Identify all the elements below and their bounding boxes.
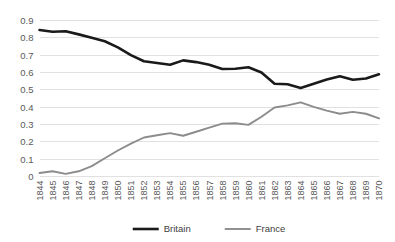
series-line-france <box>40 102 380 174</box>
x-tick-label: 1852 <box>139 181 149 201</box>
x-tick-label: 1847 <box>74 181 84 201</box>
y-tick-label: 0.1 <box>20 154 33 165</box>
x-tick-label: 1860 <box>244 181 254 201</box>
x-tick-label: 1868 <box>348 181 358 201</box>
chart-legend: BritainFrance <box>133 223 286 234</box>
data-series <box>40 30 380 174</box>
x-tick-label: 1851 <box>126 181 136 201</box>
series-line-britain <box>40 30 380 88</box>
chart-plot-area: 0.90.80.70.60.50.40.30.20.10 18441845184… <box>0 0 395 242</box>
legend-item-britain[interactable]: Britain <box>133 223 191 234</box>
y-tick-label: 0.8 <box>20 32 33 43</box>
y-tick-label: 0.5 <box>20 84 33 95</box>
x-tick-label: 1857 <box>205 181 215 201</box>
x-tick-label: 1850 <box>113 181 123 201</box>
gridlines <box>40 21 380 177</box>
x-tick-label: 1863 <box>283 181 293 201</box>
x-tick-label: 1862 <box>270 181 280 201</box>
x-tick-label: 1870 <box>374 181 384 201</box>
x-tick-label: 1864 <box>296 181 306 201</box>
legend-label: Britain <box>164 223 191 234</box>
x-tick-label: 1854 <box>165 181 175 201</box>
x-tick-label: 1859 <box>231 181 241 201</box>
x-tick-label: 1848 <box>87 181 97 201</box>
x-tick-label: 1866 <box>322 181 332 201</box>
y-tick-label: 0.6 <box>20 67 33 78</box>
x-tick-label: 1853 <box>152 181 162 201</box>
x-tick-label: 1845 <box>48 181 58 201</box>
legend-item-france[interactable]: France <box>225 223 286 234</box>
x-tick-label: 1861 <box>257 181 267 201</box>
x-tick-label: 1855 <box>178 181 188 201</box>
line-chart: 0.90.80.70.60.50.40.30.20.10 18441845184… <box>0 0 395 242</box>
y-axis-tick-labels: 0.90.80.70.60.50.40.30.20.10 <box>20 15 33 182</box>
legend-label: France <box>256 223 286 234</box>
y-tick-label: 0.7 <box>20 50 33 61</box>
x-tick-label: 1844 <box>35 181 45 201</box>
x-tick-label: 1856 <box>191 181 201 201</box>
x-tick-label: 1858 <box>218 181 228 201</box>
x-tick-label: 1869 <box>361 181 371 201</box>
x-tick-label: 1849 <box>100 181 110 201</box>
y-tick-label: 0 <box>28 171 33 182</box>
y-tick-label: 0.9 <box>20 15 33 26</box>
x-tick-label: 1846 <box>61 181 71 201</box>
x-tick-label: 1865 <box>309 181 319 201</box>
y-tick-label: 0.2 <box>20 136 33 147</box>
y-tick-label: 0.3 <box>20 119 33 130</box>
x-tick-label: 1867 <box>335 181 345 201</box>
y-tick-label: 0.4 <box>20 102 33 113</box>
x-axis-tick-labels: 1844184518461847184818491850185118521853… <box>35 181 385 201</box>
